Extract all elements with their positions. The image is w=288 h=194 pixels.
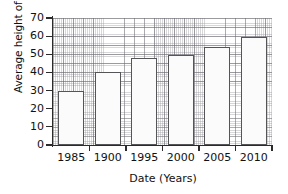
y-tick-mark xyxy=(46,54,53,55)
x-tick-mark xyxy=(198,145,199,151)
y-tick-mark xyxy=(46,36,53,37)
y-tick-label: 70 xyxy=(18,12,44,23)
y-tick-label: 0 xyxy=(18,139,44,150)
bar xyxy=(58,91,84,145)
bar xyxy=(131,58,157,145)
y-tick-mark xyxy=(46,144,53,145)
y-tick-mark xyxy=(46,90,53,91)
y-tick-mark xyxy=(46,108,53,109)
bar xyxy=(204,47,230,145)
plot-area xyxy=(53,18,272,145)
bar xyxy=(168,55,194,145)
y-tick-mark xyxy=(46,126,53,127)
y-tick-label: 50 xyxy=(18,48,44,59)
x-tick-mark xyxy=(89,145,90,151)
x-axis-title: Date (Years) xyxy=(53,172,273,185)
y-tick-label: 10 xyxy=(18,121,44,132)
x-tick-mark xyxy=(125,145,126,151)
bar xyxy=(95,72,121,145)
bar-chart-figure: Average height of trees (m) 010203040506… xyxy=(0,0,288,194)
x-tick-mark xyxy=(235,145,236,151)
y-tick-mark xyxy=(46,17,53,18)
y-tick-label: 40 xyxy=(18,66,44,77)
y-tick-label: 20 xyxy=(18,103,44,114)
x-tick-mark xyxy=(271,145,272,151)
x-tick-mark xyxy=(162,145,163,151)
y-tick-mark xyxy=(46,72,53,73)
x-tick-label: 2010 xyxy=(232,152,276,164)
y-tick-label: 30 xyxy=(18,85,44,96)
bar xyxy=(241,37,267,145)
y-tick-label: 60 xyxy=(18,30,44,41)
